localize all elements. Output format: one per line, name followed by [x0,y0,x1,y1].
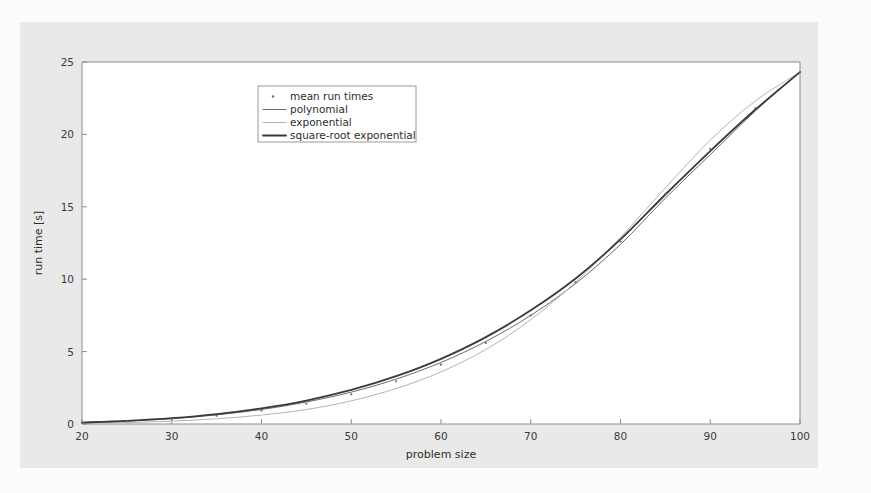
data-point [440,364,442,366]
x-tick-label: 60 [434,430,447,442]
data-point [126,420,128,422]
figure-canvas: 2030405060708090100 0510152025 problem s… [20,22,818,468]
data-point [395,380,397,382]
data-point [619,240,621,242]
x-tick-label: 30 [165,430,178,442]
data-point [216,415,218,417]
legend-label: square-root exponential [290,129,416,141]
data-point [709,148,711,150]
data-point [799,71,801,73]
legend-label: polynomial [290,103,348,115]
x-tick-label: 50 [345,430,358,442]
x-tick-label: 40 [255,430,268,442]
x-tick-label: 70 [524,430,537,442]
data-point [350,393,352,395]
y-axis-title: run time [s] [32,211,45,276]
data-point [305,403,307,405]
data-point [260,410,262,412]
x-tick-label: 20 [75,430,88,442]
x-tick-label: 80 [614,430,627,442]
data-point [485,342,487,344]
legend-label: mean run times [290,90,373,102]
run-time-line-chart: 2030405060708090100 0510152025 problem s… [20,22,818,468]
plot-area-background [82,62,800,424]
legend-marker-dot [272,95,274,97]
data-point [530,314,532,316]
y-tick-label: 0 [67,418,74,430]
y-tick-label: 15 [61,201,74,213]
y-tick-label: 5 [67,346,74,358]
data-point [664,193,666,195]
x-tick-label: 90 [704,430,717,442]
y-tick-label: 25 [61,56,74,68]
x-tick-label: 100 [790,430,810,442]
data-point [171,418,173,420]
data-point [81,422,83,424]
chart-legend[interactable]: mean run timespolynomialexponentialsquar… [258,86,416,142]
y-tick-label: 20 [61,128,74,140]
data-point [575,281,577,283]
y-tick-label: 10 [61,273,74,285]
x-axis-title: problem size [406,448,477,461]
data-point [754,107,756,109]
legend-label: exponential [290,116,352,128]
